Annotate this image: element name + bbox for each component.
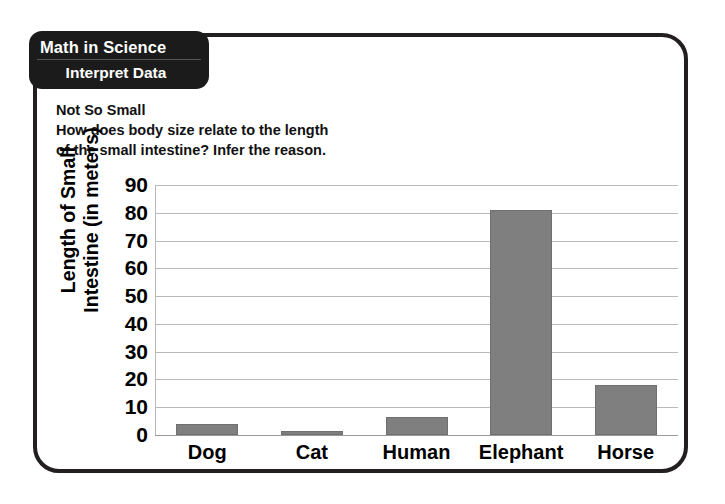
x-tick-label: Cat: [260, 440, 365, 464]
bar: [176, 424, 238, 435]
x-axis-tick-labels: DogCatHumanElephantHorse: [155, 440, 678, 470]
bar: [386, 417, 448, 435]
bar-series: [155, 185, 678, 436]
y-axis-tick-labels: 9080706050403020100: [100, 172, 148, 438]
y-tick-label: 10: [100, 396, 148, 417]
y-tick-label: 90: [100, 174, 148, 195]
bar: [490, 210, 552, 435]
page-root: Math in Science Interpret Data Not So Sm…: [0, 0, 725, 504]
y-tick-label: 60: [100, 257, 148, 278]
bar: [281, 431, 343, 435]
activity-question-line-2: of the small intestine? Infer the reason…: [56, 140, 476, 160]
y-tick-label: 20: [100, 368, 148, 389]
tab-title-secondary: Interpret Data: [29, 62, 209, 83]
y-tick-label: 50: [100, 285, 148, 306]
activity-title: Not So Small: [56, 101, 476, 120]
y-axis-title-line-1: Length of Small: [57, 147, 80, 293]
x-tick-label: Dog: [155, 440, 260, 464]
y-tick-label: 30: [100, 341, 148, 362]
x-tick-label: Elephant: [469, 440, 574, 464]
x-tick-label: Horse: [573, 440, 678, 464]
bar: [595, 385, 657, 435]
x-tick-label: Human: [364, 440, 469, 464]
tab-title-primary: Math in Science: [29, 36, 209, 58]
y-tick-label: 40: [100, 313, 148, 334]
heading-block: Not So Small How does body size relate t…: [56, 101, 476, 160]
activity-question-line-1: How does body size relate to the length: [56, 120, 476, 140]
y-tick-label: 80: [100, 202, 148, 223]
math-in-science-tab[interactable]: Math in Science Interpret Data: [29, 31, 209, 89]
plot-area: [155, 185, 678, 436]
tab-divider: [37, 59, 201, 60]
y-tick-label: 0: [100, 424, 148, 445]
y-tick-label: 70: [100, 230, 148, 251]
